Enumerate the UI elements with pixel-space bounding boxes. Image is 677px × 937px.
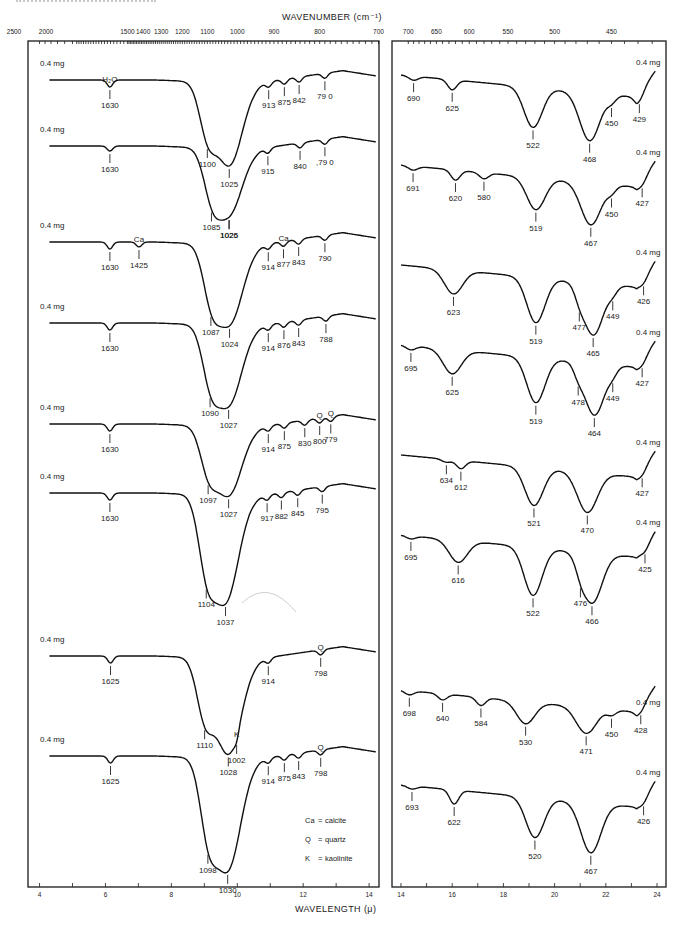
peak-label: 795 <box>316 506 330 515</box>
ir-spectra-figure: 2500200015001400130012001100100090080070… <box>0 0 677 937</box>
peak-label: 690 <box>407 94 421 103</box>
sample-mass-label: 0.4 mg <box>636 518 660 527</box>
peak-label: 425 <box>638 565 652 574</box>
sample-mass-label: 0.4 mg <box>636 698 660 707</box>
peak-label: 917 <box>260 514 274 523</box>
spectrum-2: 0.4 mg1630108510261025915840,79 0 <box>40 125 376 240</box>
spectrum-5: 0.4 mg163010971027914875830800Q779Q <box>40 403 376 519</box>
peak-annotation: Q <box>317 411 323 420</box>
spectrum-1: 0.4 mg690625522468450429 <box>401 58 660 164</box>
peak-label: 876 <box>277 341 291 350</box>
spectrum-curve <box>401 261 655 335</box>
top-tick-label: 600 <box>464 28 475 35</box>
peak-label: 913 <box>262 101 276 110</box>
top-tick-label: 700 <box>373 28 384 35</box>
spectrum-8: 0.4 mg693622520467426 <box>401 768 660 876</box>
sample-mass-label: 0.4 mg <box>636 248 660 257</box>
top-tick-label: 800 <box>314 28 325 35</box>
spectrum-curve <box>401 341 655 415</box>
peak-label: 580 <box>477 193 491 202</box>
peak-label: 450 <box>605 119 619 128</box>
bottom-tick-label: 14 <box>365 891 373 898</box>
peak-label: 468 <box>583 155 597 164</box>
peak-annotation: Q <box>318 743 324 752</box>
legend-equals: = <box>318 816 323 825</box>
peak-label: 798 <box>314 669 328 678</box>
left-top-axis-labels: 2500200015001400130012001100100090080070… <box>7 28 385 35</box>
peak-label: 522 <box>526 141 540 150</box>
sample-mass-label: 0.4 mg <box>40 635 64 644</box>
spectrum-curve <box>401 686 655 733</box>
peak-label: 1027 <box>220 510 238 519</box>
peak-label: 695 <box>404 364 418 373</box>
left-spectra: 0.4 mg1630H₂O1100102591387584279 00.4 mg… <box>40 59 376 895</box>
spectrum-curve <box>49 71 375 166</box>
peak-label: 470 <box>581 526 595 535</box>
bottom-tick-label: 6 <box>104 891 108 898</box>
sample-mass-label: 0.4 mg <box>636 148 660 157</box>
peak-label: 1104 <box>198 600 216 609</box>
peak-label: 693 <box>405 803 419 812</box>
legend-meaning: kaolinite <box>325 854 353 863</box>
peak-label: 79 0 <box>317 92 333 101</box>
right-panel: 700650600550500450 141618202224 0.4 mg69… <box>392 28 666 898</box>
spectrum-7: 0.4 mg698640584530471450428 <box>401 686 660 756</box>
peak-label: 840 <box>293 162 307 171</box>
peak-label: 623 <box>447 308 461 317</box>
peak-label: 915 <box>261 167 275 176</box>
peak-label: 882 <box>275 512 289 521</box>
peak-label: 426 <box>637 817 651 826</box>
peak-label: 519 <box>529 417 543 426</box>
peak-label: 449 <box>606 394 620 403</box>
peak-label: 914 <box>262 777 276 786</box>
sample-mass-label: 0.4 mg <box>40 221 64 230</box>
peak-label: 521 <box>527 519 541 528</box>
peak-label: 427 <box>635 489 649 498</box>
peak-label: 520 <box>528 852 542 861</box>
peak-label: 1100 <box>199 160 217 169</box>
bottom-tick-label: 20 <box>551 891 559 898</box>
peak-label: 476 <box>574 599 588 608</box>
legend: Ca=calciteQ=quartzK=kaolinite <box>305 816 353 863</box>
peak-label: 875 <box>278 98 292 107</box>
peak-label: 1002 <box>228 756 246 765</box>
top-tick-label: 1500 <box>120 28 135 35</box>
peak-label: 1630 <box>101 445 119 454</box>
peak-label: 875 <box>278 442 292 451</box>
peak-label: 845 <box>291 509 305 518</box>
peak-label: 1027 <box>220 421 238 430</box>
bottom-tick-label: 24 <box>653 891 661 898</box>
peak-label: 1037 <box>217 618 235 627</box>
peak-label: 477 <box>573 323 587 332</box>
peak-label: 519 <box>529 337 543 346</box>
peak-label: 1625 <box>102 777 120 786</box>
bottom-tick-label: 14 <box>397 891 405 898</box>
peak-label: 450 <box>605 730 619 739</box>
peak-label: 830 <box>298 439 312 448</box>
peak-annotation: K <box>234 730 240 739</box>
spectrum-curve <box>49 647 375 755</box>
peak-label: 1097 <box>199 496 217 505</box>
peak-label: 1028 <box>219 768 237 777</box>
sample-mass-label: 0.4 mg <box>40 302 64 311</box>
top-tick-label: 2500 <box>7 28 22 35</box>
peak-label: 798 <box>314 769 328 778</box>
peak-label: 790 <box>318 254 332 263</box>
peak-label: 522 <box>526 609 540 618</box>
peak-label: 698 <box>403 709 417 718</box>
peak-label: 530 <box>519 738 533 747</box>
top-tick-label: 1300 <box>154 28 169 35</box>
bottom-tick-label: 12 <box>300 891 308 898</box>
bottom-tick-label: 4 <box>38 891 42 898</box>
peak-label: 464 <box>588 429 602 438</box>
peak-label: 875 <box>278 774 292 783</box>
peak-label: 1630 <box>101 263 119 272</box>
peak-label: 465 <box>586 349 600 358</box>
peak-label: 1098 <box>199 866 217 875</box>
spectrum-3: 0.4 mg623519477465449426 <box>401 248 660 358</box>
legend-equals: = <box>318 854 323 863</box>
peak-annotation: Ca <box>278 234 289 243</box>
spectrum-curve <box>49 415 375 497</box>
peak-label: 625 <box>445 388 459 397</box>
peak-label: 1025 <box>220 231 238 240</box>
